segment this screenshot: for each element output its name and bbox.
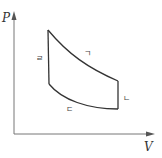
x-axis-label: V <box>144 140 154 154</box>
x-axis <box>14 132 155 137</box>
label-nieun: ㄴ <box>123 94 130 103</box>
label-giyeok: ㄱ <box>84 49 91 58</box>
y-axis-arrow-icon <box>12 11 17 20</box>
label-digeut: ㄷ <box>66 105 73 114</box>
x-axis-arrow-icon <box>146 132 155 137</box>
thermodynamic-cycle <box>48 30 118 109</box>
process-rieul-line <box>48 30 49 84</box>
label-rieul: ㄹ <box>36 54 43 63</box>
y-axis <box>12 11 17 134</box>
pv-diagram: P V ㄹ ㄱ ㄴ ㄷ <box>0 0 162 158</box>
process-digeut-curve <box>49 84 118 109</box>
y-axis-label: P <box>1 11 11 25</box>
process-giyeok-curve <box>48 30 118 81</box>
